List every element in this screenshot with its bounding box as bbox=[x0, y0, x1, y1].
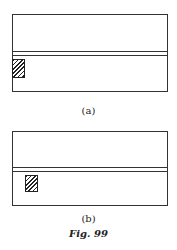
panel-a-label: (a) bbox=[0, 105, 177, 116]
panel-a-channel bbox=[13, 51, 167, 56]
panel-b-hatched-block bbox=[25, 175, 38, 192]
panel-b-label: (b) bbox=[0, 213, 177, 224]
panel-b-frame bbox=[12, 131, 168, 206]
panel-a-frame bbox=[12, 14, 168, 92]
panel-a-hatched-block bbox=[12, 59, 25, 78]
panel-b-channel bbox=[13, 167, 167, 172]
figure-caption: Fig. 99 bbox=[0, 228, 177, 239]
